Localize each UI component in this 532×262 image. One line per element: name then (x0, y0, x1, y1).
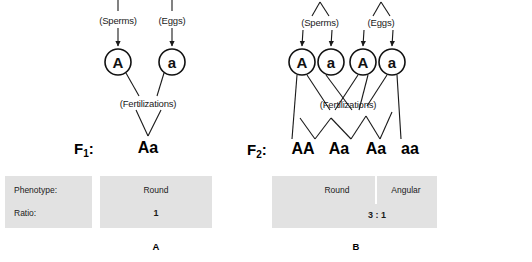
panel-b-fertilization-caption: (Fertilizations) (320, 99, 376, 110)
panel-b-egg-allele-1: A (358, 55, 369, 70)
panel-a-figure-letter: A (153, 241, 160, 252)
panel-b-generation-letter: F (247, 141, 256, 158)
panel-b-phenotype-angular: Angular (391, 185, 420, 195)
panel-b-generation-label: F2: (247, 141, 267, 158)
panel-b-offspring-genotype-3: Aa (366, 140, 386, 158)
panel-b-offspring-genotype-1: AA (291, 140, 314, 158)
panel-b-sperm-allele-2: a (327, 55, 335, 70)
panel-b-egg-allele-2: a (388, 55, 396, 70)
panel-b-egg-caption: (Eggs) (368, 17, 395, 28)
panel-a-ratio-row-label: Ratio: (14, 208, 36, 218)
panel-a-phenotype-row-label: Phenotype: (14, 185, 57, 195)
panel-b-figure-letter: B (353, 241, 360, 252)
panel-b-generation-colon: : (262, 141, 267, 158)
panel-a-generation-colon: : (89, 140, 94, 157)
panel-b-phenotype-round: Round (324, 185, 349, 195)
panel-b-sperm-caption: (Sperms) (301, 17, 338, 28)
panel-a-generation-letter: F (74, 140, 83, 157)
panel-a-ratio-value: 1 (153, 208, 158, 218)
panel-a-label-box (5, 176, 92, 228)
panel-a-generation-label: F1: (74, 140, 94, 157)
panel-b-generation-subscript: 2 (256, 149, 262, 160)
genetics-figure: (Sperms) (Eggs) A a (Fertilizations) F1:… (0, 0, 532, 262)
panel-b-sperm-allele-1: A (297, 55, 308, 70)
panel-a-egg-caption: (Eggs) (159, 15, 186, 26)
panel-b-ratio-box (272, 204, 437, 228)
panel-a-value-box (100, 176, 212, 228)
panel-a-offspring-genotype: Aa (138, 139, 158, 157)
panel-a-sperm-caption: (Sperms) (99, 15, 136, 26)
panel-a-generation-subscript: 1 (83, 148, 89, 159)
panel-b-ratio-value: 3 : 1 (368, 210, 386, 220)
panel-a-sperm-allele: A (113, 55, 124, 70)
panel-a-phenotype-value: Round (143, 185, 168, 195)
panel-b-offspring-genotype-4: aa (401, 140, 419, 158)
panel-b-offspring-genotype-2: Aa (329, 140, 349, 158)
panel-a-fertilization-caption: (Fertilizations) (120, 98, 176, 109)
panel-a-egg-allele: a (168, 55, 176, 70)
